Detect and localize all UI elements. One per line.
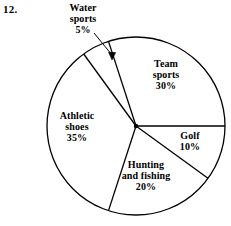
slice-label-team-sports: Team sports 30% bbox=[140, 58, 192, 91]
pie-center-point bbox=[134, 124, 138, 128]
slice-value-water-sports: 5% bbox=[55, 24, 111, 35]
slice-label-water-sports-line2: sports bbox=[70, 13, 97, 24]
slice-label-golf: Golf 10% bbox=[170, 130, 210, 152]
slice-value-hunting-and-fishing: 20% bbox=[108, 181, 184, 192]
pie-chart-figure: 12. Water sports 5% Team sports 30% Golf… bbox=[0, 0, 231, 226]
slice-label-water-sports: Water sports 5% bbox=[55, 2, 111, 35]
pie-chart-graphic bbox=[0, 0, 231, 226]
slice-label-athletic-shoes: Athletic shoes 35% bbox=[48, 110, 106, 143]
slice-label-hunting-line2: and fishing bbox=[122, 170, 171, 181]
slice-value-athletic-shoes: 35% bbox=[48, 132, 106, 143]
slice-label-water-sports-line1: Water bbox=[69, 2, 96, 13]
slice-label-hunting-and-fishing: Hunting and fishing 20% bbox=[108, 159, 184, 192]
slice-label-golf-line1: Golf bbox=[180, 130, 199, 141]
slice-label-team-sports-line1: Team bbox=[154, 58, 178, 69]
slice-value-golf: 10% bbox=[170, 141, 210, 152]
slice-label-athletic-line2: shoes bbox=[65, 121, 88, 132]
slice-label-team-sports-line2: sports bbox=[153, 69, 180, 80]
slice-value-team-sports: 30% bbox=[140, 80, 192, 91]
slice-label-hunting-line1: Hunting bbox=[128, 159, 164, 170]
slice-label-athletic-line1: Athletic bbox=[60, 110, 95, 121]
